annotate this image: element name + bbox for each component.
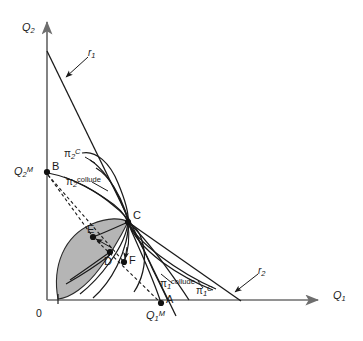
point-marker-C	[125, 219, 131, 225]
pointer-arrow-pi2-C	[85, 157, 95, 163]
point-marker-A	[158, 300, 164, 306]
monopoly-label-Q1M: Q1M	[146, 310, 165, 323]
isoprofit-label-pi2-collude: π2collude	[66, 176, 101, 189]
reaction-line-r1-label: r1	[88, 48, 96, 60]
reaction-line-r2-label: r2	[258, 266, 266, 278]
pointer-arrow-r1	[66, 57, 88, 77]
point-label-A: A	[166, 294, 173, 305]
isoprofit-label-pi1-collude: π1collude	[160, 278, 195, 291]
figure-root: Q2 Q1 0 r1 r2 π2C π2collude π1collude π1…	[0, 0, 363, 341]
point-marker-B	[44, 169, 50, 175]
point-label-D: D	[104, 256, 112, 267]
isoprofit-label-pi2-C: π2C	[64, 148, 81, 161]
origin-label: 0	[36, 308, 42, 319]
monopoly-label-Q2M: Q2M	[14, 166, 33, 179]
y-axis-label: Q2	[22, 22, 35, 35]
isoprofit-label-pi1-C: π1C	[196, 285, 213, 298]
pointer-arrow-r2	[235, 274, 258, 292]
point-marker-F	[121, 259, 127, 265]
point-label-C: C	[133, 210, 141, 221]
point-label-E: E	[87, 224, 94, 235]
point-label-F: F	[129, 255, 136, 266]
x-axis-label: Q1	[333, 290, 346, 303]
point-label-B: B	[52, 161, 59, 172]
